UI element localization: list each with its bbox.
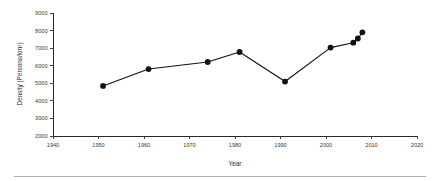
data-point (355, 36, 361, 42)
data-point (146, 66, 152, 72)
data-point (100, 83, 106, 89)
chart-figure: 20003000400050006000700080009000 1940195… (0, 0, 440, 181)
y-axis-title: Density (Persons/km²) (16, 42, 24, 105)
x-tick-label: 1940 (47, 142, 59, 148)
y-tick-label: 2000 (35, 133, 47, 139)
x-tick-label: 2020 (411, 142, 423, 148)
data-point (350, 40, 356, 46)
density-series-line (103, 32, 362, 86)
data-point (328, 45, 334, 51)
y-axis-tick-labels: 20003000400050006000700080009000 (35, 10, 47, 139)
data-point (205, 59, 211, 65)
data-point (282, 79, 288, 85)
y-tick-label: 8000 (35, 28, 47, 34)
density-series-markers (100, 29, 365, 88)
data-point (360, 29, 366, 35)
data-point (237, 49, 243, 55)
x-tick-label: 1960 (138, 142, 150, 148)
y-tick-label: 9000 (35, 10, 47, 16)
y-tick-label: 5000 (35, 80, 47, 86)
y-tick-label: 4000 (35, 98, 47, 104)
x-tick-label: 1950 (92, 142, 104, 148)
x-tick-label: 1980 (229, 142, 241, 148)
x-tick-label: 1970 (183, 142, 195, 148)
y-tick-label: 7000 (35, 45, 47, 51)
x-axis-title: Year (229, 160, 243, 167)
x-tick-label: 2010 (365, 142, 377, 148)
x-axis-tick-labels: 194019501960197019801990200020102020 (47, 142, 423, 148)
y-tick-label: 3000 (35, 115, 47, 121)
x-tick-label: 1990 (274, 142, 286, 148)
y-tick-label: 6000 (35, 63, 47, 69)
x-tick-label: 2000 (320, 142, 332, 148)
chart-plot-area: 20003000400050006000700080009000 1940195… (0, 0, 440, 181)
